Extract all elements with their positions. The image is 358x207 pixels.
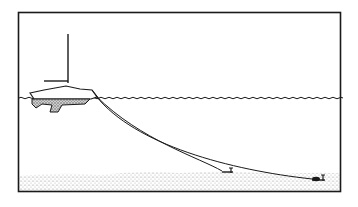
anchor-1-icon xyxy=(222,168,233,173)
hull xyxy=(30,86,97,99)
rode-1 xyxy=(96,96,222,171)
rode-2 xyxy=(96,96,312,179)
anchoring-illustration xyxy=(0,0,358,207)
keel xyxy=(32,99,90,112)
seabed xyxy=(19,172,340,191)
